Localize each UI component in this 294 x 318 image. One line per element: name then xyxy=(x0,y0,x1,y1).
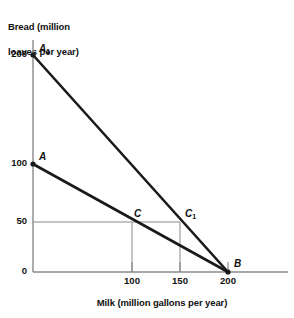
y-tick-label-50: 50 xyxy=(0,215,27,226)
x-axis-title: Milk (million gallons per year) xyxy=(33,297,291,308)
y-tick-label-0: 0 xyxy=(0,265,27,276)
point-label-a: A xyxy=(39,151,46,162)
y-tick-label-200: 200 xyxy=(0,48,27,59)
point-label-b: B xyxy=(234,258,241,269)
ppf-line-a1-b xyxy=(33,55,228,272)
point-label-c: C xyxy=(134,208,141,219)
x-tick-label-200: 200 xyxy=(213,275,243,286)
point-label-c1: C1 xyxy=(185,208,196,219)
ppf-line-a-b xyxy=(33,164,228,272)
x-tick-label-150: 150 xyxy=(165,275,195,286)
y-tick-label-100: 100 xyxy=(0,157,27,168)
point-label-c1-subscript: 1 xyxy=(192,213,196,220)
point-marker-a1 xyxy=(30,52,35,57)
production-possibilities-chart: Bread (million loaves per year) 200 100 … xyxy=(0,0,294,318)
x-tick-label-100: 100 xyxy=(117,275,147,286)
point-marker-b xyxy=(225,269,230,274)
point-marker-a xyxy=(30,161,35,166)
point-label-a1-subscript: 1 xyxy=(46,48,50,55)
point-label-a1: A1 xyxy=(39,43,50,54)
